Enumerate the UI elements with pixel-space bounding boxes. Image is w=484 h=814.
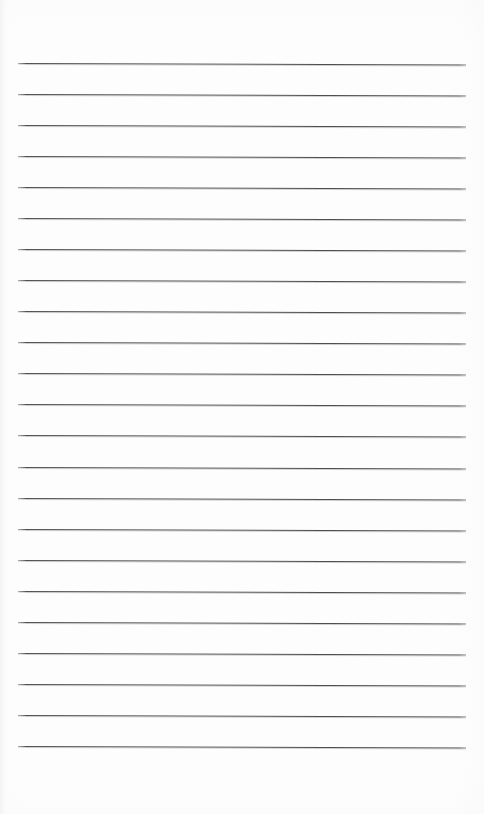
ruled-line-halo bbox=[18, 219, 466, 221]
ruled-line-halo bbox=[18, 157, 466, 159]
ruled-line bbox=[0, 467, 484, 470]
ruled-line-halo bbox=[18, 188, 466, 190]
ruled-line bbox=[0, 311, 484, 314]
ruled-line bbox=[0, 653, 484, 656]
ruled-line-halo bbox=[18, 95, 466, 97]
ruled-line-halo bbox=[18, 561, 466, 563]
ruled-line bbox=[0, 94, 484, 97]
ruled-line-halo bbox=[18, 530, 466, 532]
ruled-line bbox=[0, 187, 484, 190]
ruled-line-halo bbox=[18, 405, 466, 407]
ruled-line-halo bbox=[18, 592, 466, 594]
ruled-line bbox=[0, 435, 484, 438]
ruled-line bbox=[0, 529, 484, 532]
ruled-line-halo bbox=[18, 312, 466, 314]
ruled-line-halo bbox=[18, 250, 466, 252]
ruled-line-halo bbox=[18, 343, 466, 345]
ruled-line-halo bbox=[18, 654, 466, 656]
ruled-line bbox=[0, 249, 484, 252]
ruled-line bbox=[0, 280, 484, 283]
ruled-line bbox=[0, 156, 484, 159]
ruled-line-halo bbox=[18, 126, 466, 128]
ruled-line bbox=[0, 125, 484, 128]
ruled-line-halo bbox=[18, 747, 466, 749]
ruled-line bbox=[0, 498, 484, 501]
ruled-line bbox=[0, 622, 484, 625]
ruled-line bbox=[0, 715, 484, 718]
ruled-line-halo bbox=[18, 468, 466, 470]
ruled-line-halo bbox=[18, 64, 466, 66]
ruled-line-halo bbox=[18, 685, 466, 687]
lined-paper-page bbox=[0, 0, 484, 814]
ruled-line bbox=[0, 684, 484, 687]
ruled-line-halo bbox=[18, 374, 466, 376]
ruled-line-halo bbox=[18, 716, 466, 718]
ruled-lines-group bbox=[0, 0, 484, 814]
ruled-line-halo bbox=[18, 436, 466, 438]
ruled-line-halo bbox=[18, 623, 466, 625]
ruled-line bbox=[0, 218, 484, 221]
ruled-line bbox=[0, 63, 484, 66]
ruled-line-halo bbox=[18, 281, 466, 283]
ruled-line bbox=[0, 560, 484, 563]
ruled-line bbox=[0, 591, 484, 594]
ruled-line bbox=[0, 373, 484, 376]
ruled-line bbox=[0, 746, 484, 749]
ruled-line bbox=[0, 404, 484, 407]
ruled-line-halo bbox=[18, 499, 466, 501]
ruled-line bbox=[0, 342, 484, 345]
